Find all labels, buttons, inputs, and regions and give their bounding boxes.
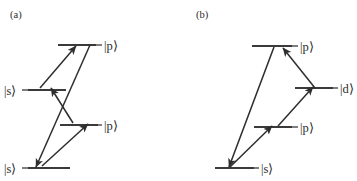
- transition-arrow-p-lower-to-s-upper-crossing: [51, 88, 73, 123]
- panel-a: (a)|p⟩|s⟩|p⟩|s⟩: [4, 9, 118, 176]
- level-label-s-upper: |s⟩: [4, 84, 16, 98]
- panel-b: (b)|p⟩|d⟩|p⟩|s⟩: [196, 9, 354, 176]
- transition-arrow-d-to-p-upper: [283, 48, 315, 88]
- panel-tag-a: (a): [10, 9, 22, 21]
- energy-level-figure: (a)|p⟩|s⟩|p⟩|s⟩ (b)|p⟩|d⟩|p⟩|s⟩: [0, 0, 357, 181]
- transition-arrow-p-upper-to-s-lower-crossing: [36, 45, 90, 167]
- panel-tag-b: (b): [196, 9, 209, 21]
- transition-arrow-s-upper-to-p-upper: [40, 46, 76, 88]
- level-label-s-lower: |s⟩: [4, 162, 16, 176]
- level-label-d: |d⟩: [340, 82, 354, 96]
- level-label-p-lower: |p⟩: [300, 121, 314, 135]
- transition-arrow-s-lower-to-p-lower: [42, 124, 88, 166]
- level-diagram-canvas: (a)|p⟩|s⟩|p⟩|s⟩ (b)|p⟩|d⟩|p⟩|s⟩: [0, 0, 357, 181]
- level-label-s: |s⟩: [261, 162, 273, 176]
- transition-arrow-s-to-p-upper: [229, 47, 274, 167]
- level-label-p-upper: |p⟩: [300, 40, 314, 54]
- level-label-p-upper: |p⟩: [104, 39, 118, 53]
- level-label-p-lower: |p⟩: [104, 119, 118, 133]
